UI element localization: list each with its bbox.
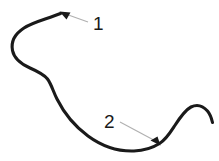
callout-label-1: 1 bbox=[93, 13, 104, 34]
figure-canvas: 1 2 bbox=[0, 0, 219, 161]
curve-diagram: 1 2 bbox=[0, 0, 219, 161]
callout-label-2: 2 bbox=[104, 111, 115, 132]
